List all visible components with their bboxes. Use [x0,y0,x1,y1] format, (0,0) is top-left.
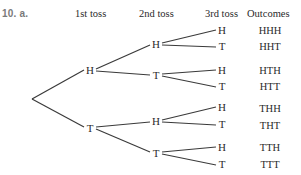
outcome-hth: HTH [259,65,281,76]
node-toss1-tails: T [87,123,94,134]
outcome-thh: THH [259,103,281,114]
node-toss3-th-tails: T [219,119,226,130]
node-toss2-h-heads: H [152,39,160,50]
node-toss1-heads: H [86,65,94,76]
outcome-tth: TTH [260,142,280,153]
node-toss2-t-heads: H [152,116,160,127]
node-toss3-hh-tails: T [219,41,226,52]
tree-branches [0,0,301,175]
node-toss3-tt-heads: H [218,142,226,153]
node-toss3-tt-tails: T [219,159,226,170]
outcome-hht: HHT [259,41,281,52]
node-toss3-hh-heads: H [218,25,226,36]
node-toss3-ht-tails: T [219,81,226,92]
outcome-htt: HTT [260,81,280,92]
outcome-tht: THT [260,120,280,131]
node-toss2-t-tails: T [153,148,160,159]
outcome-hhh: HHH [259,25,282,36]
node-toss3-ht-heads: H [218,65,226,76]
node-toss2-h-tails: T [153,70,160,81]
outcome-ttt: TTT [260,159,279,170]
node-toss3-th-heads: H [218,102,226,113]
